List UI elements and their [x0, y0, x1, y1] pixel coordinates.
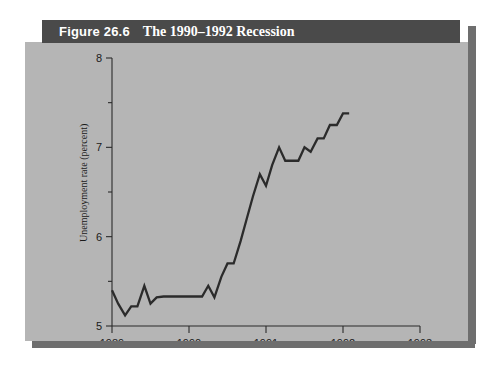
svg-text:8: 8 [96, 52, 102, 64]
svg-text:1989: 1989 [100, 337, 124, 341]
svg-text:1991: 1991 [254, 337, 278, 341]
x-axis-ticks: 19891990199119921993 [100, 326, 432, 341]
svg-text:6: 6 [96, 231, 102, 243]
y-axis-minor-ticks [108, 103, 112, 282]
svg-text:7: 7 [96, 141, 102, 153]
figure-card: Figure 26.6 The 1990–1992 Recession Unem… [0, 0, 499, 381]
figure-caption: The 1990–1992 Recession [143, 24, 295, 40]
svg-text:1992: 1992 [331, 337, 355, 341]
svg-text:1990: 1990 [177, 337, 201, 341]
y-axis-title: Unemployment rate (percent) [78, 124, 90, 242]
figure-title-banner: Figure 26.6 The 1990–1992 Recession [42, 20, 460, 43]
card-shadow-bottom [32, 340, 475, 348]
unemployment-line-chart: Unemployment rate (percent) 5678 1989199… [25, 42, 468, 341]
card-shadow-right [468, 26, 476, 344]
svg-text:1993: 1993 [408, 337, 432, 341]
unemployment-rate-series [112, 113, 349, 315]
figure-number-label: Figure 26.6 [59, 24, 130, 39]
svg-text:5: 5 [96, 320, 102, 332]
